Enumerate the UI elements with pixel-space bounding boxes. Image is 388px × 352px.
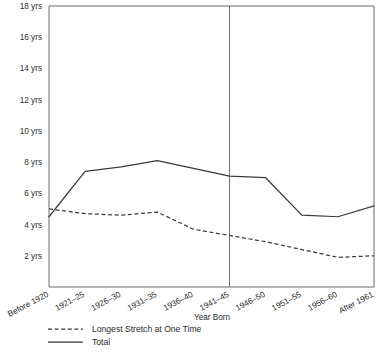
- x-axis-tick-label: After 1961: [337, 290, 375, 316]
- x-axis-tick-label: 1921–25: [54, 290, 87, 313]
- legend-label-longest-stretch: Longest Stretch at One Time: [92, 324, 202, 334]
- x-axis-title: Year Born: [194, 313, 231, 322]
- x-axis-tick-label: 1931–35: [126, 290, 159, 313]
- plot-frame: [49, 6, 374, 287]
- legend-label-total: Total: [92, 337, 110, 347]
- y-axis-tick-label: 10 yrs: [20, 127, 42, 136]
- plot-border: [49, 6, 374, 287]
- line-chart: 2 yrs4 yrs6 yrs8 yrs10 yrs12 yrs14 yrs16…: [0, 0, 388, 352]
- y-axis-tick-label: 16 yrs: [20, 33, 42, 42]
- y-axis-tick-label: 18 yrs: [20, 2, 42, 11]
- y-axis-tick-label: 6 yrs: [24, 189, 42, 198]
- x-axis-tick-label: 1926–30: [90, 290, 123, 313]
- y-axis-tick-label: 14 yrs: [20, 64, 42, 73]
- y-axis-tick-label: 8 yrs: [24, 158, 42, 167]
- x-axis-tick-label: 1956–60: [306, 290, 339, 313]
- y-axis-tick-label: 2 yrs: [24, 252, 42, 261]
- x-axis-tick-label: 1946–50: [234, 290, 267, 313]
- x-axis-tick-labels: Before 19201921–251926–301931–351936–401…: [6, 290, 375, 319]
- chart-legend: Longest Stretch at One Time Total: [48, 324, 202, 347]
- y-axis-tick-labels: 2 yrs4 yrs6 yrs8 yrs10 yrs12 yrs14 yrs16…: [20, 2, 42, 261]
- x-axis-tick-label: 1936–40: [162, 290, 195, 313]
- x-axis-tick-label: Before 1920: [6, 290, 50, 319]
- x-axis-tick-label: 1941–45: [198, 290, 231, 313]
- y-axis-tick-label: 12 yrs: [20, 96, 42, 105]
- data-series-group: [49, 161, 374, 258]
- series-line-total: [49, 161, 374, 217]
- chart-container: 2 yrs4 yrs6 yrs8 yrs10 yrs12 yrs14 yrs16…: [0, 0, 388, 352]
- x-axis-tick-label: 1951–55: [270, 290, 303, 313]
- y-axis-tick-label: 4 yrs: [24, 221, 42, 230]
